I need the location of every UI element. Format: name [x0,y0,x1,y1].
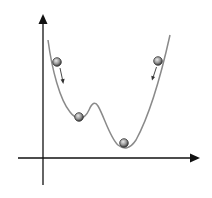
arrow-right-downhill [151,67,156,81]
x-axis-arrowhead [190,154,200,163]
arrow-left-downhill [60,68,65,84]
y-axis [39,14,48,185]
ball-global-minimum [120,139,129,148]
ball-local-minimum [75,113,84,122]
ball-right-slope [154,57,163,66]
double-well-diagram [0,0,212,198]
y-axis-arrowhead [39,14,48,24]
ball-left-slope [53,58,62,67]
x-axis [18,154,200,163]
potential-curve [48,35,170,148]
